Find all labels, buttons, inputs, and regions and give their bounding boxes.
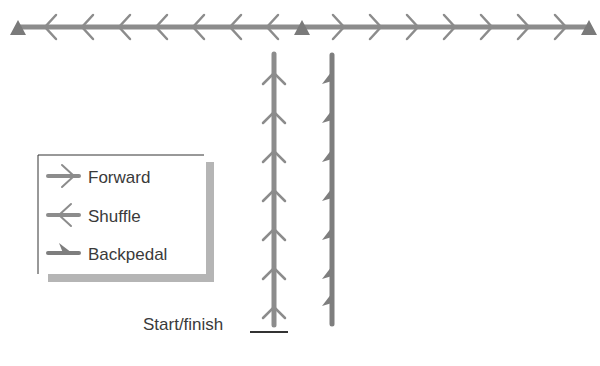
top-line — [10, 15, 597, 39]
legend-label-backpedal: Backpedal — [88, 245, 167, 264]
drill-diagram: Start/finish Forward Shuffle — [0, 0, 600, 366]
start-finish-marker: Start/finish — [143, 315, 288, 334]
forward-path — [263, 54, 285, 325]
legend-label-shuffle: Shuffle — [88, 207, 141, 226]
backpedal-path — [322, 55, 332, 324]
legend-label-forward: Forward — [88, 168, 150, 187]
legend: Forward Shuffle Backpedal — [38, 155, 214, 282]
start-finish-label: Start/finish — [143, 315, 223, 334]
